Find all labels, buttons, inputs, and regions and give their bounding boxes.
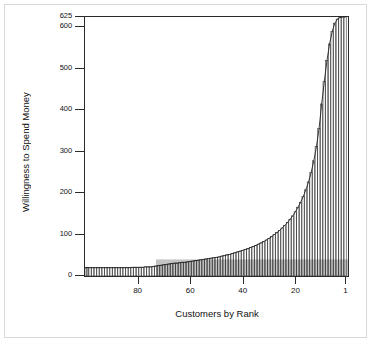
bar: [152, 266, 154, 276]
bar: [136, 267, 138, 276]
x-axis-ticks: 806040201: [84, 277, 350, 305]
y-tick-label: 500: [60, 63, 72, 72]
bars-svg: [85, 17, 348, 276]
bars-layer: [85, 17, 348, 276]
bar: [149, 267, 151, 276]
y-tick-label: 0: [68, 270, 72, 279]
bar: [89, 268, 91, 276]
bar: [147, 267, 149, 276]
x-tick-mark: [138, 277, 139, 284]
bar: [128, 268, 130, 276]
bar: [344, 17, 346, 276]
y-tick-mark: [75, 16, 84, 17]
bar: [121, 268, 123, 276]
x-tick-mark: [345, 277, 346, 284]
bar: [336, 19, 338, 276]
bar: [134, 267, 136, 276]
bar: [123, 268, 125, 276]
y-tick-label: 200: [60, 187, 72, 196]
bar: [94, 268, 96, 276]
y-tick-500: 500: [0, 64, 84, 74]
bar: [105, 268, 107, 276]
y-tick-label: 400: [60, 104, 72, 113]
bar: [102, 268, 104, 276]
x-tick-label: 20: [280, 286, 310, 295]
bar: [99, 268, 101, 276]
bar: [315, 147, 317, 276]
x-tick-mark: [295, 277, 296, 284]
bar: [334, 23, 336, 276]
bar: [328, 44, 330, 276]
y-tick-625: 625: [0, 12, 84, 22]
x-tick-mark: [243, 277, 244, 284]
y-tick-label: 100: [60, 229, 72, 238]
y-tick-600: 600: [0, 22, 84, 32]
x-tick-label: 80: [123, 286, 153, 295]
bar: [320, 104, 322, 276]
bar-group: [85, 17, 346, 276]
x-tick-mark: [190, 277, 191, 284]
bar: [113, 268, 115, 276]
bar: [339, 17, 341, 276]
bar: [326, 61, 328, 276]
y-tick-mark: [75, 192, 84, 193]
y-tick-label: 625: [60, 11, 72, 20]
y-tick-label: 300: [60, 146, 72, 155]
y-tick-label: 600: [60, 21, 72, 30]
bar: [144, 267, 146, 276]
y-axis-ticks: 0100200300400500600625: [0, 0, 84, 300]
bar: [115, 268, 117, 276]
y-tick-400: 400: [0, 105, 84, 115]
bar: [107, 268, 109, 276]
x-axis-title: Customers by Rank: [84, 308, 350, 319]
y-tick-mark: [75, 151, 84, 152]
y-tick-mark: [75, 234, 84, 235]
x-tick-label: 40: [228, 286, 258, 295]
y-tick-mark: [75, 275, 84, 276]
x-tick-label: 1: [330, 286, 360, 295]
chart-figure: Willingness to Spend Money 0100200300400…: [0, 0, 371, 342]
y-tick-mark: [75, 68, 84, 69]
y-tick-300: 300: [0, 147, 84, 157]
y-tick-200: 200: [0, 188, 84, 198]
bar: [313, 161, 315, 276]
x-tick-label: 60: [175, 286, 205, 295]
bar: [318, 128, 320, 276]
bar: [331, 32, 333, 277]
bar: [323, 81, 325, 276]
bar: [131, 267, 133, 276]
bar: [97, 268, 99, 276]
y-tick-mark: [75, 26, 84, 27]
y-tick-0: 0: [0, 271, 84, 281]
plot-area: [84, 16, 349, 277]
bar: [126, 268, 128, 276]
y-tick-mark: [75, 109, 84, 110]
bar: [110, 268, 112, 276]
bar: [118, 268, 120, 276]
bar: [139, 267, 141, 276]
demand-curve: [85, 17, 345, 268]
bar: [142, 267, 144, 276]
bar: [92, 268, 94, 276]
y-tick-100: 100: [0, 230, 84, 240]
bar: [341, 17, 343, 276]
